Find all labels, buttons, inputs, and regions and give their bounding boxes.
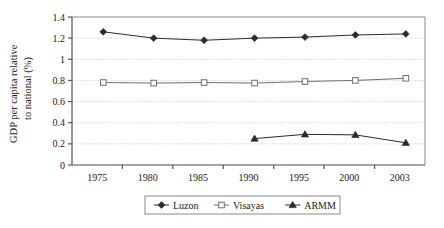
y-tick-label: 1.2: [53, 33, 66, 44]
x-tick-label: 1995: [289, 172, 309, 183]
y-axis-title-line1: GDP per capita relative: [8, 44, 19, 143]
data-point-marker: [403, 76, 409, 82]
y-tick-label: 1.4: [53, 12, 66, 23]
y-tick-label: 0.2: [53, 138, 66, 149]
y-tick-label: 0.4: [53, 117, 66, 128]
data-point-marker: [252, 80, 258, 86]
x-tick-label: 2000: [339, 172, 359, 183]
x-tick-label: 1990: [239, 172, 259, 183]
chart-legend: LuzonVisayasARMM: [145, 196, 340, 214]
legend-label: Visayas: [233, 200, 264, 211]
y-tick-label: 0.8: [53, 75, 66, 86]
data-point-marker: [151, 80, 157, 86]
data-point-marker: [353, 78, 359, 84]
data-point-marker: [100, 80, 106, 86]
gdp-per-capita-line-chart: GDP per capita relative to national (%) …: [0, 0, 444, 228]
x-tick-label: 1985: [188, 172, 208, 183]
y-tick-label: 0.6: [53, 96, 66, 107]
y-tick-label: 1: [60, 54, 65, 65]
x-tick-label: 1980: [138, 172, 158, 183]
y-axis-title-line2: to national (%): [22, 57, 34, 120]
y-tick-label: 0: [60, 160, 65, 171]
x-tick-label: 1975: [87, 172, 107, 183]
chart-container: GDP per capita relative to national (%) …: [0, 0, 444, 228]
legend-label: Luzon: [173, 200, 199, 211]
data-point-marker: [219, 202, 225, 208]
data-point-marker: [302, 79, 308, 85]
data-point-marker: [201, 80, 207, 86]
legend-label: ARMM: [304, 200, 336, 211]
x-tick-label: 2003: [390, 172, 410, 183]
